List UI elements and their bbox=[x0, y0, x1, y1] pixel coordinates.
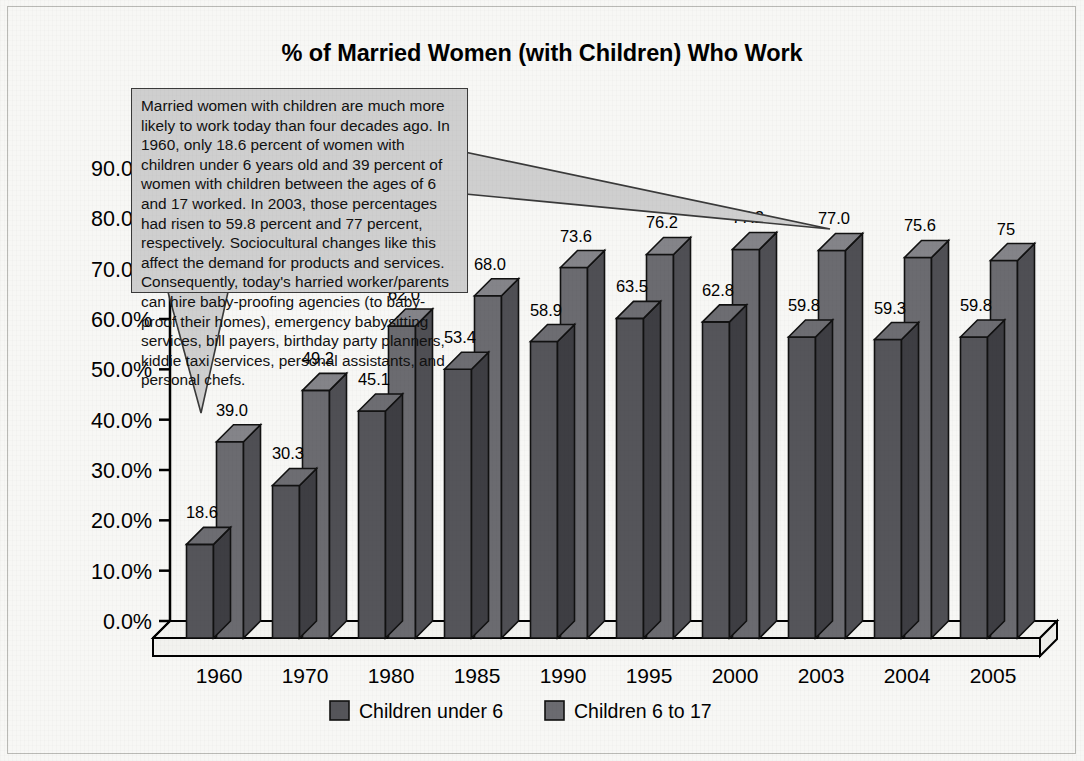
chart-figure: % of Married Women (with Children) Who W… bbox=[0, 0, 1084, 761]
annotation-callout-box: Married women with children are much mor… bbox=[131, 88, 468, 293]
annotation-text: Married women with children are much mor… bbox=[141, 96, 458, 390]
annotation-tail-right bbox=[455, 150, 830, 229]
